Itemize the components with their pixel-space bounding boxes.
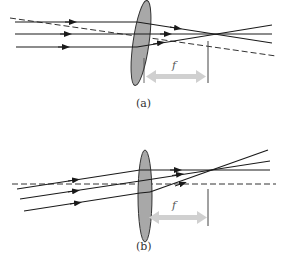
- caption-a: (a): [136, 97, 151, 110]
- panel-b: [12, 150, 276, 242]
- panel-a: [10, 0, 276, 87]
- diagram-canvas: [0, 0, 291, 255]
- focal-length-arrow: [149, 211, 207, 224]
- converging-lens: [138, 150, 152, 242]
- focal-length-label-a: f: [172, 59, 176, 72]
- caption-b: (b): [136, 240, 152, 253]
- focal-length-label-b: f: [172, 199, 176, 212]
